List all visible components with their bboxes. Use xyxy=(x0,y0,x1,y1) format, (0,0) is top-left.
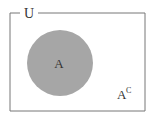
set-a-label: A xyxy=(54,56,64,71)
venn-diagram: U A A C xyxy=(0,0,155,119)
universe-label: U xyxy=(24,6,34,21)
complement-superscript: C xyxy=(126,86,131,95)
